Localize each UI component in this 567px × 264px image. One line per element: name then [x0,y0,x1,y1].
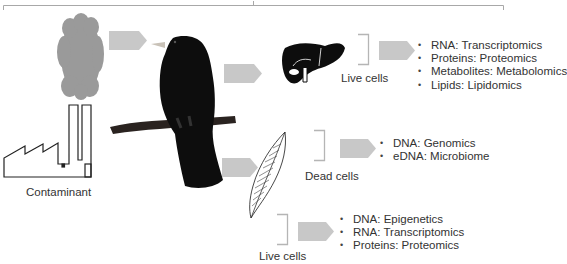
omics-item: Proteins: Proteomics [418,52,567,65]
cell-type-label: Live cells [259,250,306,262]
contaminant-label: Contaminant [26,186,91,198]
cell-type-label: Dead cells [305,170,359,182]
feather-icon [245,130,295,220]
arrow-right-icon [224,64,264,86]
bracket-icon [275,213,291,247]
arrow-right-icon [298,222,338,244]
cell-type-label: Live cells [341,72,388,84]
omics-item: RNA: Transcriptomics [418,39,567,52]
omics-item: RNA: Transcriptomics [340,226,464,239]
omics-item: DNA: Genomics [380,137,490,150]
bracket-icon [312,129,328,163]
factory-icon [0,100,100,180]
pollution-cloud-icon [56,12,106,102]
omics-item: eDNA: Microbiome [380,150,490,163]
omics-item: Metabolites: Metabolomics [418,65,567,78]
omics-item: Lipids: Lipidomics [418,79,567,92]
omics-list: RNA: Transcriptomics Proteins: Proteomic… [418,39,567,92]
omics-item: DNA: Epigenetics [340,213,464,226]
omics-list: DNA: Epigenetics RNA: Transcriptomics Pr… [340,213,464,253]
arrow-right-icon [379,41,419,63]
omics-list: DNA: Genomics eDNA: Microbiome [380,137,490,163]
omics-item: Proteins: Proteomics [340,239,464,252]
arrow-right-icon [340,139,380,161]
bracket-icon [356,33,372,67]
